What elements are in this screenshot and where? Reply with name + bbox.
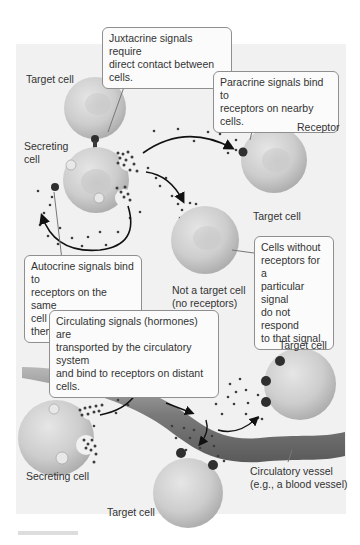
callout-line: and bind to receptors on distant cells. <box>56 367 212 393</box>
no-receptor-callout: Cells without receptors for a particular… <box>254 236 334 350</box>
callout-line: Autocrine signals bind to <box>31 260 135 286</box>
callout-line: Juxtacrine signals require <box>109 32 225 58</box>
not-target-arrow <box>146 172 183 201</box>
circulating-callout: Circulating signals (hormones) are trans… <box>49 310 219 398</box>
callout-line: do not respond <box>261 306 327 332</box>
label-secreting-cell-top: Secreting cell <box>24 140 68 166</box>
label-line: (e.g., a blood vessel) <box>250 478 347 491</box>
juxtacrine-contact-icon <box>91 135 99 149</box>
label-vessel: Circulatory vessel (e.g., a blood vessel… <box>250 465 347 491</box>
label-receptor: Receptor <box>297 121 340 134</box>
label-target-cell-top: Target cell <box>26 73 74 86</box>
label-line: (no receptors) <box>172 297 246 310</box>
callout-line: Cells without <box>261 241 327 254</box>
label-line: cell <box>24 153 68 166</box>
target-cell-distant-bottom <box>153 448 223 528</box>
label-line: Circulatory vessel <box>250 465 347 478</box>
label-target-cell-bottom: Target cell <box>107 506 155 519</box>
label-target-cell-far: Target cell <box>279 339 327 352</box>
autocrine-pointer <box>54 192 62 260</box>
label-line: Secreting <box>24 140 68 153</box>
callout-line: transported by the circulatory system <box>56 341 212 367</box>
autocrine-arrow <box>42 206 131 250</box>
label-line: Not a target cell <box>172 284 246 297</box>
target-cell-distant-right <box>261 348 336 420</box>
callout-line: receptors for a <box>261 254 327 280</box>
label-secreting-cell-bottom: Secreting cell <box>26 470 89 483</box>
callout-line: particular signal <box>261 280 327 306</box>
secreting-cell-bottom <box>18 400 99 476</box>
non-target-cell <box>171 206 239 274</box>
label-target-cell-right: Target cell <box>253 210 301 223</box>
label-not-target: Not a target cell (no receptors) <box>172 284 246 310</box>
callout-line: receptors on the same <box>31 286 135 312</box>
exit-arrow-up <box>218 418 257 432</box>
callout-line: Circulating signals (hormones) are <box>56 315 212 341</box>
figure-caption-stub <box>18 531 78 535</box>
callout-line: Paracrine signals bind to <box>220 76 332 102</box>
paracrine-arrow <box>143 137 232 153</box>
callout-line: direct contact between cells. <box>109 58 225 84</box>
